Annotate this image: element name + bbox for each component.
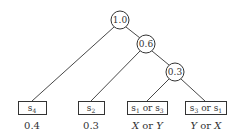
leaf-s2-probability: 0.3 xyxy=(83,120,99,131)
edge-root-to-node-0-6 xyxy=(126,27,140,38)
node-root-label: 1.0 xyxy=(113,15,128,25)
edge-node-0-3-to-s3-or-s1 xyxy=(181,79,205,101)
leaf-s1-or-s3-probability: X or Y xyxy=(131,120,164,131)
edge-node-0-3-to-s1-or-s3 xyxy=(147,79,169,101)
node-0-6: 0.6 xyxy=(137,35,155,53)
node-0-3: 0.3 xyxy=(166,63,184,81)
leaf-s4-probability: 0.4 xyxy=(24,120,40,131)
node-0-3-label: 0.3 xyxy=(168,67,183,77)
leaf-s3-or-s1: s3 or s1 Y or X xyxy=(186,102,227,132)
tree-diagram: 1.0 0.6 0.3 s4 0.4 s2 0.3 s1 or s3 X or … xyxy=(0,0,244,139)
edge-node-0-6-to-s2 xyxy=(91,51,140,101)
edge-node-0-6-to-node-0-3 xyxy=(152,51,169,65)
leaf-s3-or-s1-probability: Y or X xyxy=(191,120,223,131)
leaf-s2: s2 0.3 xyxy=(79,102,105,132)
leaf-s4: s4 0.4 xyxy=(19,102,47,132)
leaf-s1-or-s3: s1 or s3 X or Y xyxy=(128,102,168,132)
node-root: 1.0 xyxy=(111,11,129,29)
node-0-6-label: 0.6 xyxy=(139,39,154,49)
